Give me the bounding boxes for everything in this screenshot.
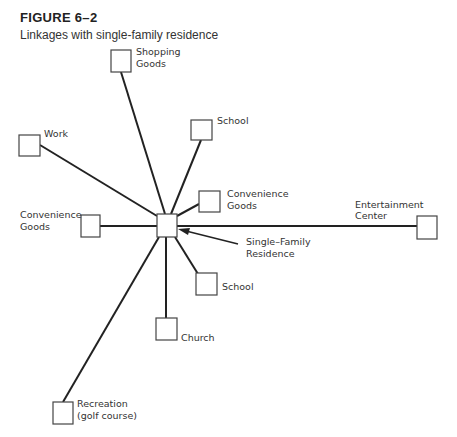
label-shopping-goods-2: Goods <box>136 58 166 69</box>
label-work: Work <box>44 128 69 139</box>
label-school-top: School <box>217 115 249 126</box>
link-convenience-right <box>177 204 199 216</box>
label-entertainment-2: Center <box>355 210 387 221</box>
link-school-top <box>171 140 201 214</box>
box-convenience-left <box>81 215 100 237</box>
box-entertainment-center <box>417 216 437 239</box>
box-work <box>19 135 40 156</box>
label-convenience-right-2: Goods <box>227 200 257 211</box>
link-work <box>40 145 157 216</box>
label-residence-1: Single–Family <box>246 236 311 247</box>
box-recreation <box>53 402 73 424</box>
label-church: Church <box>181 332 215 343</box>
box-school-top <box>191 120 212 140</box>
label-recreation-2: (golf course) <box>77 410 137 421</box>
linkage-diagram: Shopping Goods School Work Convenience G… <box>0 0 457 437</box>
box-residence <box>157 214 177 237</box>
box-convenience-right <box>199 191 220 212</box>
link-shopping-goods <box>121 72 165 214</box>
label-shopping-goods-1: Shopping <box>136 46 181 57</box>
label-convenience-left-1: Convenience <box>20 209 82 220</box>
label-recreation-1: Recreation <box>77 398 128 409</box>
box-shopping-goods <box>111 50 131 72</box>
box-school-bottom <box>196 273 217 295</box>
link-school-bottom <box>175 237 198 274</box>
label-convenience-right-1: Convenience <box>227 188 289 199</box>
label-entertainment-1: Entertainment <box>355 199 424 210</box>
pointer-arrow <box>178 228 238 244</box>
label-convenience-left-2: Goods <box>20 221 50 232</box>
link-recreation <box>63 237 159 402</box>
box-church <box>156 318 177 340</box>
label-school-bottom: School <box>222 281 254 292</box>
label-residence-2: Residence <box>246 248 295 259</box>
